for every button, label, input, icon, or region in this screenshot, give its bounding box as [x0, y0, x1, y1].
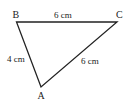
vertex-label-a: A: [38, 90, 46, 101]
vertex-label-c: C: [116, 9, 123, 20]
triangle-abc: [17, 22, 118, 87]
side-label-ab: 4 cm: [7, 54, 25, 64]
triangle-diagram: B C A 6 cm 4 cm 6 cm: [0, 0, 132, 103]
side-label-ac: 6 cm: [81, 56, 99, 66]
side-label-bc: 6 cm: [54, 10, 72, 20]
vertex-label-b: B: [13, 9, 20, 20]
